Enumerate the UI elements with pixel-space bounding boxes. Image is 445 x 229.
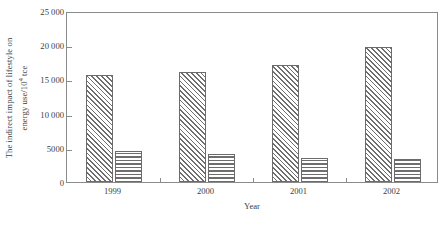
x-axis-tick-label: 2002	[383, 186, 400, 197]
x-axis-tick-mark	[160, 178, 161, 182]
y-axis-title-line1: The indirect impact of lifestyle on	[4, 38, 15, 159]
chart-figure: The indirect impact of lifestyle on ener…	[0, 0, 445, 229]
y-axis-tick-mark	[67, 81, 72, 82]
y-axis-tick-label: 10 000	[24, 110, 64, 119]
bar-2001-series1	[272, 65, 299, 182]
plot-area	[66, 12, 438, 183]
bar-2001-series2	[301, 158, 328, 182]
y-axis-tick-label: 15 000	[24, 76, 64, 85]
y-axis-title-exponent: 4	[17, 78, 24, 81]
x-axis-tick-labels: 1999200020012002	[66, 186, 438, 200]
y-axis-tick-label: 0	[24, 179, 64, 188]
y-axis-tick-mark	[67, 47, 72, 48]
bar-2000-series2	[208, 154, 235, 182]
bar-2000-series1	[179, 72, 206, 182]
bar-1999-series2	[115, 151, 142, 182]
x-axis-tick-label: 2000	[197, 186, 214, 197]
x-axis-tick-mark	[346, 178, 347, 182]
x-axis-tick-mark	[253, 178, 254, 182]
x-axis-title: Year	[66, 201, 438, 212]
y-axis-tick-labels: 0500010 00015 00020 00025 000	[24, 0, 64, 229]
x-axis-tick-label: 1999	[104, 186, 121, 197]
y-axis-tick-label: 20 000	[24, 42, 64, 51]
y-axis-tick-label: 5000	[24, 144, 64, 153]
bar-2002-series2	[394, 159, 421, 182]
y-axis-tick-mark	[67, 116, 72, 117]
bar-1999-series1	[86, 75, 113, 182]
y-axis-tick-mark	[67, 150, 72, 151]
y-axis-tick-label: 25 000	[24, 8, 64, 17]
x-axis-tick-label: 2001	[290, 186, 307, 197]
bar-2002-series1	[365, 47, 392, 182]
